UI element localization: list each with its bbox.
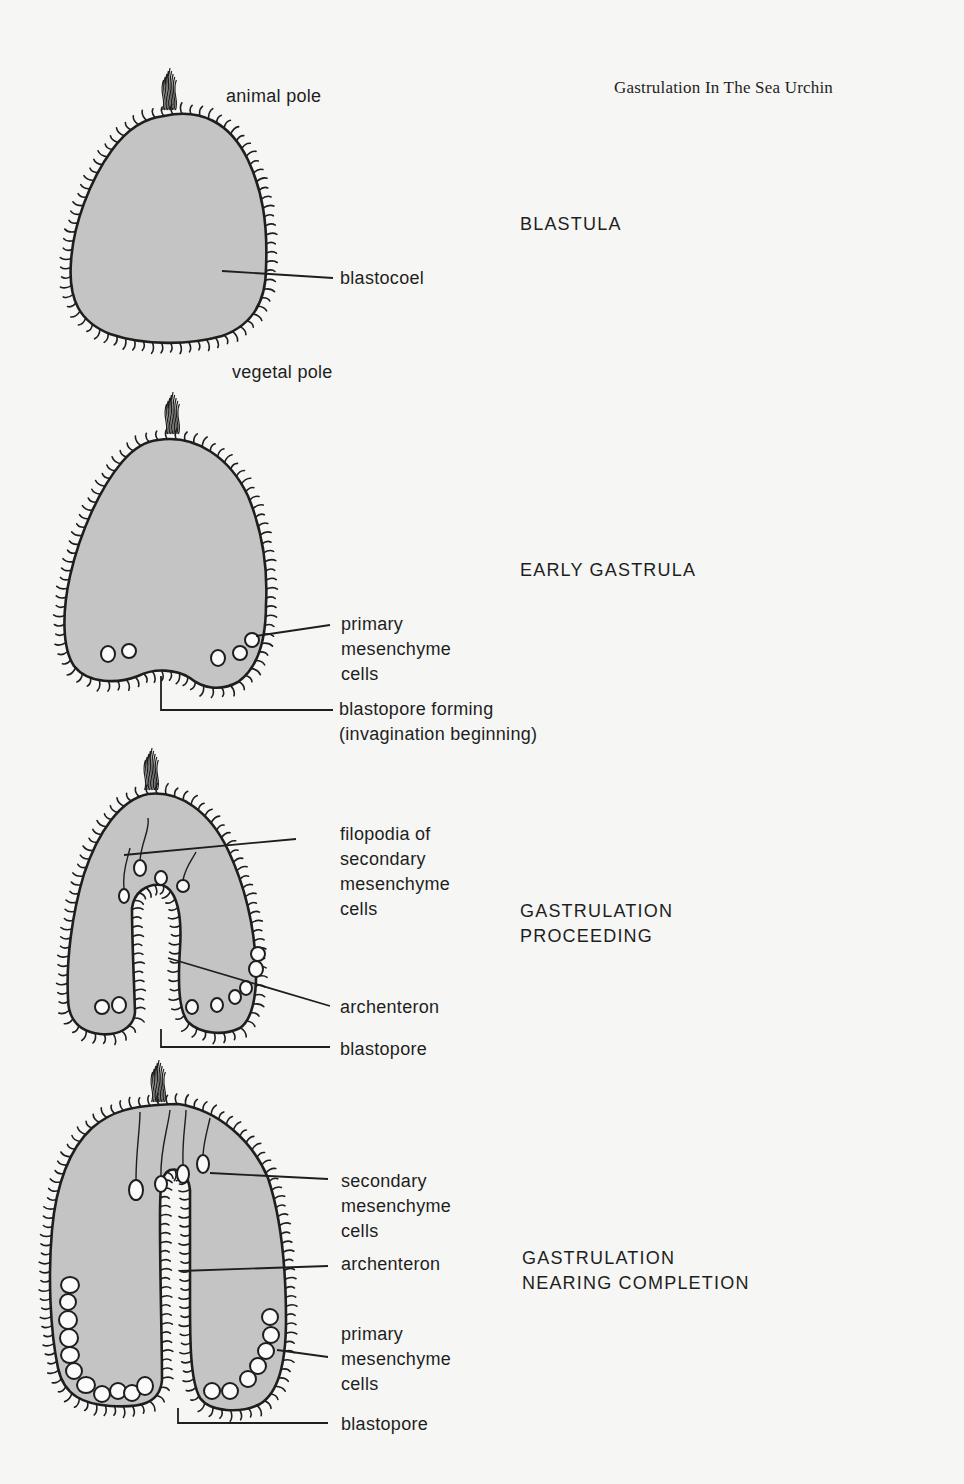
stage-title-gastrulation-nearing-completion: GASTRULATION NEARING COMPLETION [522, 1246, 750, 1296]
mesenchyme-cell-icon [112, 997, 126, 1013]
stage-title-early-gastrula: EARLY GASTRULA [520, 558, 696, 583]
mesenchyme-cell-icon [262, 1309, 278, 1325]
mesenchyme-cell-icon [211, 650, 225, 666]
mesenchyme-cell-icon [95, 1000, 109, 1014]
apical-tuft-icon [144, 748, 159, 790]
mesenchyme-cell-icon [61, 1347, 79, 1363]
mesenchyme-cell-icon [222, 1383, 238, 1399]
blastula-figure [60, 68, 277, 354]
mesenchyme-cell-icon [119, 889, 129, 903]
mesenchyme-cell-icon [61, 1277, 79, 1293]
blastocoel-label: blastocoel [340, 266, 424, 291]
primary-mesenchyme-leader-line [256, 625, 330, 636]
proceeding-body [68, 794, 257, 1035]
mesenchyme-cell-icon [137, 1377, 153, 1395]
page-title: Gastrulation In The Sea Urchin [614, 78, 833, 98]
filopodia-label: filopodia of secondary mesenchyme cells [340, 822, 450, 922]
mesenchyme-cell-icon [129, 1180, 143, 1200]
blastopore-label-1: blastopore [340, 1037, 427, 1062]
animal-pole-label: animal pole [226, 84, 321, 109]
stage-title-blastula: BLASTULA [520, 212, 622, 237]
mesenchyme-cell-icon [60, 1329, 78, 1347]
mesenchyme-cell-icon [101, 646, 115, 662]
mesenchyme-cell-icon [77, 1377, 95, 1393]
blastopore-label-2: blastopore [341, 1412, 428, 1437]
mesenchyme-cell-icon [122, 644, 136, 658]
mesenchyme-cell-icon [211, 998, 223, 1012]
blastula-body [71, 114, 267, 343]
mesenchyme-cell-icon [177, 1165, 189, 1183]
mesenchyme-cell-icon [66, 1363, 82, 1379]
mesenchyme-cell-icon [134, 860, 146, 876]
archenteron-label-1: archenteron [340, 995, 439, 1020]
secondary-mesenchyme-label: secondary mesenchyme cells [341, 1169, 451, 1244]
mesenchyme-cell-icon [177, 880, 189, 892]
mesenchyme-cell-icon [60, 1294, 76, 1310]
mesenchyme-cell-icon [155, 1176, 167, 1192]
blastopore-forming-label: blastopore forming (invagination beginni… [339, 697, 537, 747]
mesenchyme-cell-icon [94, 1386, 110, 1402]
mesenchyme-cell-icon [59, 1311, 77, 1329]
mesenchyme-cell-icon [197, 1155, 209, 1173]
mesenchyme-cell-icon [240, 1371, 256, 1387]
mesenchyme-cell-icon [233, 646, 247, 660]
apical-tuft-icon [151, 1060, 166, 1102]
gastrulation-proceeding-figure [57, 748, 268, 1045]
apical-tuft-icon [162, 68, 177, 110]
primary-mesenchyme-label-2: primary mesenchyme cells [341, 1322, 451, 1397]
diagram-canvas: Gastrulation In The Sea Urchin BLASTULA … [0, 0, 964, 1484]
mesenchyme-cell-icon [155, 871, 167, 885]
mesenchyme-cell-icon [258, 1343, 274, 1359]
stage-title-gastrulation-proceeding: GASTRULATION PROCEEDING [520, 899, 673, 949]
mesenchyme-cell-icon [249, 961, 263, 977]
mesenchyme-cell-icon [204, 1383, 220, 1399]
mesenchyme-cell-icon [263, 1327, 279, 1343]
vegetal-pole-label: vegetal pole [232, 360, 333, 385]
apical-tuft-icon [165, 392, 180, 434]
mesenchyme-cell-icon [229, 990, 241, 1004]
mesenchyme-cell-icon [251, 947, 265, 961]
early-gastrula-figure [54, 392, 278, 698]
mesenchyme-cell-icon [186, 1000, 198, 1014]
primary-mesenchyme-label: primary mesenchyme cells [341, 612, 451, 687]
archenteron-label-2: archenteron [341, 1252, 440, 1277]
gastrulation-completion-figure [39, 1060, 297, 1421]
